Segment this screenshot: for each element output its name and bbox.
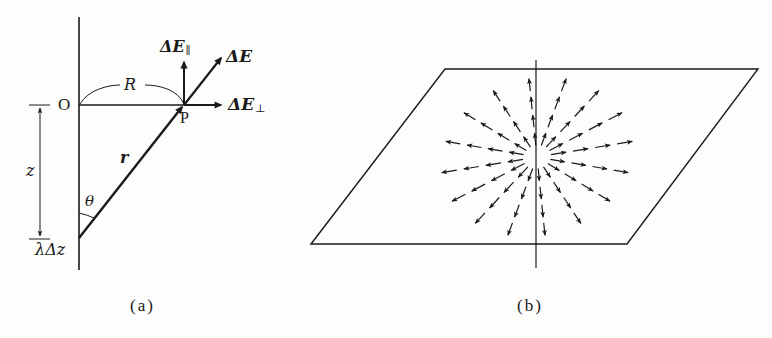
field-arrow-segment	[503, 106, 510, 117]
caption-a: (a)	[130, 297, 155, 314]
field-arrow-segment	[614, 170, 628, 173]
field-arrow-segment	[531, 97, 532, 109]
field-arrow-segment	[504, 182, 514, 193]
field-arrow-segment	[573, 149, 588, 152]
field-arrow-segment	[542, 205, 543, 217]
field-arrow-segment	[548, 164, 560, 171]
figure-b	[311, 60, 758, 268]
field-arrow-segment	[498, 133, 510, 140]
field-arrow-segment	[574, 213, 581, 224]
label-field-total: ΔE	[226, 48, 252, 65]
field-arrow-segment	[464, 113, 476, 120]
label-radius: R	[124, 77, 136, 93]
field-arrow-segment	[544, 223, 545, 235]
radial-field-arrows	[442, 79, 633, 236]
field-arrow-segment	[599, 194, 611, 201]
field-arrow-segment	[550, 144, 563, 151]
label-z: z	[26, 163, 34, 179]
label-origin: O	[58, 96, 70, 113]
field-arrow-segment	[518, 167, 528, 178]
field-arrow-segment	[617, 141, 632, 144]
field-arrow-segment	[488, 149, 502, 152]
field-arrow-segment	[555, 97, 560, 109]
field-arrow-segment	[493, 91, 500, 102]
position-vector-r	[79, 107, 182, 238]
field-arrow-segment	[475, 213, 485, 224]
field-arrow-segment	[544, 167, 551, 178]
field-arrow-segment	[550, 159, 564, 162]
figure-a	[29, 17, 221, 270]
field-arrow-segment	[515, 205, 520, 217]
label-theta: θ	[85, 194, 94, 209]
field-arrow-segment	[528, 169, 533, 181]
field-arrow-segment	[509, 152, 523, 155]
field-arrow-segment	[575, 106, 585, 117]
field-arrow-segment	[551, 152, 566, 155]
field-arrow-segment	[569, 133, 582, 140]
field-arrow-segment	[589, 91, 599, 102]
label-r: r	[120, 150, 128, 166]
field-arrow-segment	[541, 133, 546, 145]
field-arrow-segment	[442, 170, 457, 173]
field-arrow-segment	[521, 187, 526, 199]
field-arrow-segment	[464, 167, 479, 170]
field-arrow-segment	[609, 113, 622, 120]
field-arrow-segment	[562, 79, 567, 91]
label-point: P	[180, 110, 189, 126]
field-arrow-segment	[446, 141, 460, 144]
field-arrow-segment	[564, 198, 571, 209]
field-arrow-segment	[582, 184, 594, 191]
field-arrow-segment	[540, 187, 541, 199]
caption-b: (b)	[517, 297, 543, 314]
field-arrow-segment	[514, 121, 521, 131]
field-arrow-segment	[490, 198, 500, 209]
label-field-parallel: ΔE∥	[160, 39, 191, 56]
field-arrow-segment	[491, 174, 504, 181]
field-arrow-segment	[467, 145, 481, 148]
field-arrow-segment	[595, 145, 610, 148]
field-arrow-segment	[593, 167, 607, 170]
field-arrow-segment	[554, 182, 561, 193]
field-arrow-segment	[452, 194, 465, 201]
theta-arc	[79, 213, 94, 218]
field-arrow-segment	[546, 137, 556, 148]
field-arrow-segment	[538, 169, 539, 181]
field-arrow-segment	[515, 144, 527, 151]
field-arrow-segment	[511, 164, 524, 171]
field-arrow-segment	[508, 159, 523, 162]
field-arrow-segment	[508, 223, 513, 235]
field-arrow-segment	[533, 115, 534, 127]
label-charge-element: λΔz	[35, 242, 65, 258]
field-arrow-segment	[560, 121, 570, 131]
field-arrow-segment	[481, 123, 493, 130]
diagram-canvas	[0, 0, 772, 338]
field-arrow-segment	[472, 184, 485, 191]
field-arrow-segment	[572, 163, 586, 166]
label-field-perp: ΔE⊥	[228, 96, 266, 114]
field-arrow-segment	[486, 163, 501, 166]
field-arrow-segment	[548, 115, 553, 127]
field-arrow-segment	[524, 137, 531, 148]
field-total-arrow	[184, 58, 221, 105]
field-arrow-segment	[589, 123, 602, 130]
field-arrow-segment	[565, 174, 577, 181]
field-arrow-segment	[529, 79, 530, 91]
plane	[311, 69, 758, 244]
